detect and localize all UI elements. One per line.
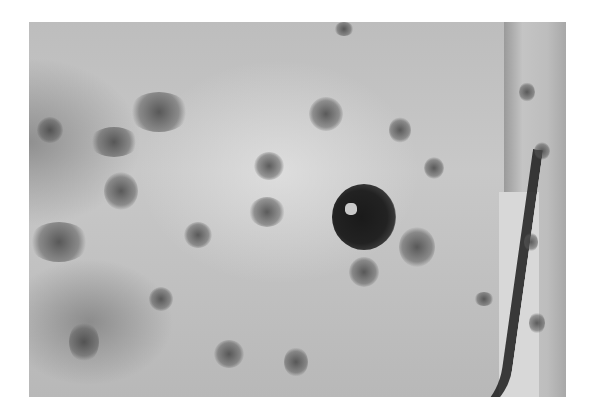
lesion-spot	[254, 152, 284, 180]
lesion-spot	[529, 312, 545, 334]
lesion-spot	[129, 92, 189, 132]
lesion-spot	[309, 97, 343, 131]
lesion-spot	[149, 287, 173, 311]
lesion-spot	[104, 172, 138, 210]
lesion-spot	[37, 117, 63, 143]
clinical-photo	[29, 22, 566, 397]
lesion-spot	[284, 347, 308, 377]
lesion-spot	[29, 222, 89, 262]
lesion-spot	[389, 117, 411, 143]
lesion-spot	[184, 222, 212, 248]
lesion-spot	[474, 292, 494, 306]
lesion-spot	[89, 127, 139, 157]
dark-nodule	[332, 184, 396, 250]
lesion-spot	[519, 82, 535, 102]
lesion-spot	[524, 232, 538, 252]
lesion-spot	[399, 227, 435, 267]
lesion-spot	[214, 340, 244, 368]
lesion-spot	[349, 257, 379, 287]
lesion-spot	[424, 157, 444, 179]
nodule-highlight	[345, 203, 357, 215]
lesion-spot	[534, 142, 550, 160]
lesion-spot	[249, 197, 285, 227]
lesion-spot	[334, 22, 354, 36]
lesion-spot	[69, 322, 99, 362]
